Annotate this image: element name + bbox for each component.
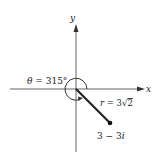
- x-axis-arrow-icon: [137, 87, 145, 92]
- point-label: 3 − 3i: [97, 131, 125, 141]
- modulus-label: r = 3√2: [100, 98, 133, 108]
- arc-arrow-icon: [78, 97, 83, 102]
- complex-plane-diagram: x y θ = 315° r = 3√2 3 − 3i: [0, 0, 159, 159]
- y-axis: y: [69, 13, 79, 152]
- angle-label: θ = 315°: [27, 76, 67, 86]
- y-axis-label: y: [69, 13, 76, 23]
- y-axis-arrow-icon: [74, 24, 79, 32]
- x-axis-label: x: [146, 84, 151, 94]
- point-marker: [108, 121, 113, 126]
